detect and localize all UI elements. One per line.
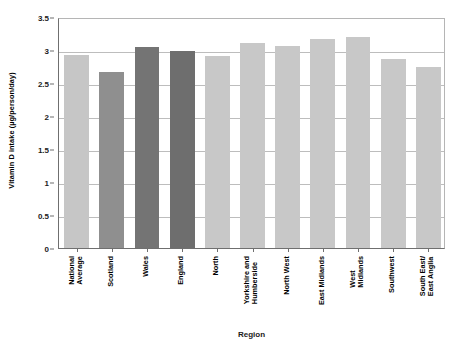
x-axis-tick-label: Scotland bbox=[98, 256, 123, 324]
x-axis-tick-mark bbox=[182, 248, 183, 252]
x-axis-tick-label: North West bbox=[274, 256, 299, 324]
x-axis-tick-mark bbox=[217, 248, 218, 252]
x-axis-tick-mark bbox=[393, 248, 394, 252]
x-axis-tick-mark bbox=[253, 248, 254, 252]
y-axis-tick-mark bbox=[50, 216, 54, 217]
x-axis-tick-label: Wales bbox=[134, 256, 159, 324]
plot-area bbox=[58, 18, 445, 249]
x-axis-tick-label: Southwest bbox=[380, 256, 405, 324]
x-axis-tick-label-line: Midlands bbox=[357, 256, 365, 288]
bar bbox=[170, 51, 195, 248]
x-axis-tick-label: East Midlands bbox=[309, 256, 334, 324]
x-axis-tick-mark bbox=[77, 248, 78, 252]
x-axis-title: Region bbox=[58, 330, 445, 339]
x-axis-tick-mark bbox=[147, 248, 148, 252]
x-axis-tick-label-line: Average bbox=[76, 256, 84, 285]
x-axis-tick-label-line: Humberside bbox=[251, 256, 259, 304]
x-axis-tick-label-line: East Midlands bbox=[318, 256, 326, 305]
bars-layer bbox=[59, 19, 444, 248]
vitamin-d-intake-by-region-bar-chart: Vitamin D intake (µg/person/day) 3.532.5… bbox=[0, 0, 451, 351]
y-axis-tick-label: 0 bbox=[45, 245, 49, 254]
y-axis-tick-label: 3 bbox=[45, 47, 49, 56]
bar bbox=[310, 39, 335, 248]
x-axis-tick-mark bbox=[323, 248, 324, 252]
bar bbox=[240, 43, 265, 248]
x-axis-tick-label: North bbox=[204, 256, 229, 324]
y-axis-tick-labels: 3.532.521.510.50 bbox=[22, 12, 54, 254]
bar bbox=[381, 59, 406, 248]
y-axis-tick-mark bbox=[50, 51, 54, 52]
bar bbox=[135, 47, 160, 248]
x-axis-tick-mark bbox=[428, 248, 429, 252]
y-axis-title-label: Vitamin D intake (µg/person/day) bbox=[7, 72, 16, 188]
x-axis-tick-labels: NationalAverageScotlandWalesEnglandNorth… bbox=[58, 256, 445, 324]
y-axis-tick-label: 2 bbox=[45, 113, 49, 122]
x-axis-tick-label-line: East Anglia bbox=[427, 256, 435, 296]
x-axis-tick-mark bbox=[288, 248, 289, 252]
y-axis-tick-label: 3.5 bbox=[38, 14, 49, 23]
x-axis-tick-label-line: North West bbox=[282, 256, 290, 295]
y-axis-tick-mark bbox=[50, 183, 54, 184]
y-axis-tick-label: 1 bbox=[45, 179, 49, 188]
y-axis-tick-mark bbox=[50, 150, 54, 151]
y-axis-tick-mark bbox=[50, 249, 54, 250]
x-axis-tick-mark bbox=[112, 248, 113, 252]
x-axis-tick-label: NationalAverage bbox=[63, 256, 88, 324]
bar bbox=[346, 37, 371, 248]
y-axis-tick-label: 2.5 bbox=[38, 80, 49, 89]
bar bbox=[416, 67, 441, 249]
y-axis-tick-mark bbox=[50, 84, 54, 85]
x-axis-tick-label-line: Wales bbox=[142, 256, 150, 277]
x-axis-tick-label-line: England bbox=[177, 256, 185, 285]
x-axis-tick-label-line: Southwest bbox=[388, 256, 396, 293]
x-axis-tick-label: WestMidlands bbox=[345, 256, 370, 324]
y-axis-tick-mark bbox=[50, 117, 54, 118]
x-axis-tick-label: Yorkshire andHumberside bbox=[239, 256, 264, 324]
x-axis-tick-label: England bbox=[169, 256, 194, 324]
x-axis-tick-label-line: Scotland bbox=[107, 256, 115, 287]
bar bbox=[99, 72, 124, 248]
bar bbox=[275, 46, 300, 248]
x-axis-tick-label: South East/East Anglia bbox=[415, 256, 440, 324]
bar bbox=[205, 56, 230, 248]
y-axis-tick-label: 0.5 bbox=[38, 212, 49, 221]
y-axis-tick-label: 1.5 bbox=[38, 146, 49, 155]
y-axis-title: Vitamin D intake (µg/person/day) bbox=[0, 0, 22, 260]
bar bbox=[64, 55, 89, 248]
x-axis-tick-mark bbox=[358, 248, 359, 252]
y-axis-tick-mark bbox=[50, 18, 54, 19]
x-axis-tick-label-line: North bbox=[212, 256, 220, 275]
